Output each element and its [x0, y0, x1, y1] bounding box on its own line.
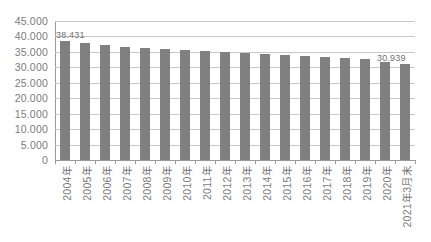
bar — [380, 62, 390, 160]
bar — [120, 47, 130, 160]
bar — [260, 54, 270, 160]
bar — [100, 45, 110, 160]
x-axis-tick — [115, 160, 116, 164]
bar — [60, 41, 70, 160]
x-axis-tick — [275, 160, 276, 164]
bar — [140, 48, 150, 160]
x-axis-tick — [415, 160, 416, 164]
x-axis-ticks — [55, 160, 415, 164]
bar — [280, 55, 290, 160]
x-axis-tick-label: 2009年 — [159, 166, 174, 201]
x-axis-tick-label: 2010年 — [179, 166, 194, 201]
x-axis-tick-label: 2004年 — [59, 166, 74, 201]
x-axis-tick — [335, 160, 336, 164]
x-axis-tick — [95, 160, 96, 164]
x-axis-tick — [375, 160, 376, 164]
x-axis-tick — [255, 160, 256, 164]
bar — [340, 58, 350, 160]
bar-value-label: 38.431 — [56, 30, 85, 40]
y-axis-tick-label: 25.000 — [15, 77, 48, 89]
x-axis: 2004年2005年2006年2007年2008年2009年2010年2011年… — [55, 166, 415, 242]
x-axis-tick-label: 2008年 — [139, 166, 154, 201]
x-axis-tick — [295, 160, 296, 164]
x-axis-tick-label: 2014年 — [259, 166, 274, 201]
bar — [160, 49, 170, 160]
y-axis-tick-label: 15.000 — [15, 108, 48, 120]
bars-layer — [55, 21, 415, 160]
x-axis-tick — [215, 160, 216, 164]
bar — [300, 56, 310, 160]
y-axis-tick-label: 20.000 — [15, 92, 48, 104]
x-axis-tick-label: 2013年 — [239, 166, 254, 201]
bar — [320, 57, 330, 160]
x-axis-tick — [195, 160, 196, 164]
y-axis: 05.00010.00015.00020.00025.00030.00035.0… — [0, 0, 52, 242]
x-axis-tick — [395, 160, 396, 164]
plot-area — [55, 21, 415, 160]
bar — [400, 64, 410, 160]
x-axis-tick — [155, 160, 156, 164]
x-axis-tick-label: 2019年 — [359, 166, 374, 201]
bar — [200, 51, 210, 160]
x-axis-tick — [315, 160, 316, 164]
y-axis-tick-label: 5.000 — [21, 139, 48, 151]
y-axis-tick-label: 45.000 — [15, 15, 48, 27]
x-axis-tick-label: 2006年 — [99, 166, 114, 201]
bar — [80, 43, 90, 160]
bar-chart: 05.00010.00015.00020.00025.00030.00035.0… — [0, 0, 431, 242]
y-axis-tick-label: 40.000 — [15, 30, 48, 42]
y-axis-tick-label: 35.000 — [15, 46, 48, 58]
x-axis-tick-label: 2020年 — [379, 166, 394, 201]
x-axis-tick — [235, 160, 236, 164]
x-axis-tick — [175, 160, 176, 164]
x-axis-tick-label: 2007年 — [119, 166, 134, 201]
bar — [220, 52, 230, 160]
bar — [360, 59, 370, 160]
x-axis-tick-label: 2018年 — [339, 166, 354, 201]
x-axis-tick — [355, 160, 356, 164]
x-axis-tick-label: 2005年 — [79, 166, 94, 201]
x-axis-tick — [75, 160, 76, 164]
x-axis-tick-label: 2012年 — [219, 166, 234, 201]
x-axis-tick-label: 2017年 — [319, 166, 334, 201]
x-axis-tick-label: 2011年 — [199, 166, 214, 200]
x-axis-tick — [55, 160, 56, 164]
y-axis-tick-label: 30.000 — [15, 61, 48, 73]
y-axis-tick-label: 0 — [42, 154, 48, 166]
bar — [180, 50, 190, 160]
bar — [240, 53, 250, 160]
bar-value-label: 30.939 — [377, 53, 406, 63]
x-axis-tick-label: 2016年 — [299, 166, 314, 201]
x-axis-tick — [135, 160, 136, 164]
x-axis-tick-label: 2015年 — [279, 166, 294, 201]
y-axis-tick-label: 10.000 — [15, 123, 48, 135]
x-axis-tick-label: 2021年3月末 — [399, 166, 414, 228]
